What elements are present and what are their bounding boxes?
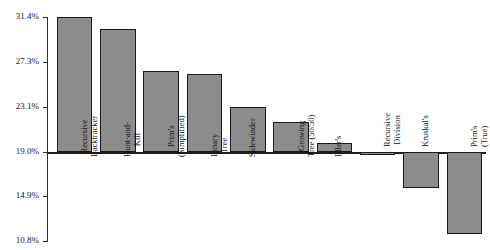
y-tick-mark xyxy=(43,241,48,242)
bar-category-label: Sidewinder xyxy=(248,118,258,157)
y-tick-label: 10.8% xyxy=(0,236,39,245)
bar xyxy=(447,152,483,235)
bar-category-label: RecursiveBacktracker xyxy=(80,116,99,157)
bar-category-label: RecursiveDivision xyxy=(383,113,402,147)
bar-category-label: Hunt-and-Kill xyxy=(123,122,142,157)
bar-category-label: Prim's(Simplified) xyxy=(167,115,186,157)
y-tick-label: 27.3% xyxy=(0,57,39,66)
bar-category-label: Prim's(True) xyxy=(470,125,489,146)
y-tick-label: 31.4% xyxy=(0,12,39,21)
y-axis-line xyxy=(47,17,48,241)
bar-chart: 31.4%27.3%23.1%19.0%14.9%10.8% Recursive… xyxy=(0,0,490,250)
y-tick-label: 23.1% xyxy=(0,102,39,111)
y-tick-label: 14.9% xyxy=(0,191,39,200)
bar xyxy=(360,152,396,155)
y-tick-label: 19.0% xyxy=(0,147,39,156)
bar-category-label: Eller's xyxy=(334,135,344,156)
bar-category-label: GrowingTree (50/50) xyxy=(297,114,316,156)
bar xyxy=(403,152,439,188)
bar-category-label: BinaryTree xyxy=(210,134,229,157)
bar-category-label: Kruskal's xyxy=(421,115,431,147)
